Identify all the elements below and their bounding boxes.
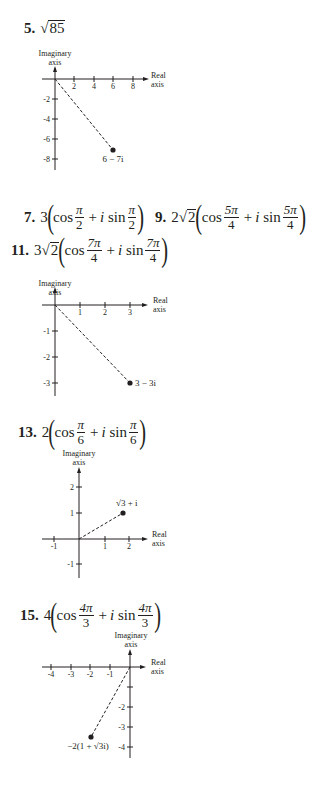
arrow-icon: [128, 649, 132, 655]
point-label: −2(1 + √3i): [67, 741, 109, 751]
svg-text:Imaginary: Imaginary: [63, 449, 96, 458]
svg-text:1: 1: [70, 509, 74, 518]
tick-labels: 2 4 6 8 -2 -4 -6 -8: [43, 82, 135, 164]
problem-number: 13.: [18, 424, 37, 441]
svg-text:Imaginary: Imaginary: [39, 49, 72, 58]
svg-text:-2: -2: [87, 670, 94, 679]
svg-text:-6: -6: [43, 135, 50, 144]
svg-text:Imaginary: Imaginary: [115, 631, 148, 640]
real-axis-label: Real axis: [152, 530, 167, 548]
point-label: 3 − 3i: [135, 378, 157, 388]
data-point: [120, 510, 125, 515]
svg-text:6: 6: [111, 82, 115, 91]
svg-text:2: 2: [103, 308, 107, 317]
svg-text:-3: -3: [68, 670, 75, 679]
graph-problem-15: Imaginary axis Real axis -4 -3 -2 -1 -2 …: [0, 630, 312, 780]
tick-labels: -1 1 2 2 1 -1: [51, 483, 131, 569]
tick-labels: 1 2 3 -1 -2 -3: [43, 308, 132, 388]
problem-number: 15.: [20, 607, 39, 624]
point-label: √3 + i: [116, 498, 138, 508]
svg-text:axis: axis: [153, 305, 166, 314]
graph-problem-11: Imaginary axis Real axis 1 2 3 -1 -2 -3 …: [0, 270, 312, 410]
svg-text:2: 2: [70, 483, 74, 492]
data-point: [88, 734, 93, 739]
svg-text:-2: -2: [118, 703, 125, 712]
problem-number: 11.: [11, 242, 29, 259]
svg-text:Imaginary: Imaginary: [39, 279, 72, 288]
svg-text:-2: -2: [43, 95, 50, 104]
svg-text:8: 8: [131, 82, 135, 91]
svg-text:Real: Real: [151, 71, 166, 80]
arrow-icon: [140, 665, 146, 669]
svg-text:-3: -3: [118, 723, 125, 732]
svg-text:-4: -4: [43, 115, 50, 124]
data-point: [110, 147, 115, 152]
problem-number: 9.: [155, 209, 166, 226]
svg-text:axis: axis: [49, 58, 62, 67]
real-axis-label: Real axis: [153, 296, 168, 314]
svg-text:-1: -1: [107, 670, 114, 679]
svg-text:-4: -4: [118, 743, 125, 752]
svg-text:-8: -8: [43, 155, 50, 164]
svg-text:Real: Real: [151, 658, 166, 667]
real-axis-label: Real axis: [151, 71, 166, 89]
svg-text:-3: -3: [43, 379, 50, 388]
svg-text:Real: Real: [152, 530, 167, 539]
svg-text:axis: axis: [73, 458, 86, 467]
dashed-line: [79, 513, 123, 539]
svg-text:-1: -1: [51, 542, 58, 551]
svg-text:2: 2: [127, 542, 131, 551]
svg-text:2: 2: [72, 82, 76, 91]
data-point: [127, 380, 132, 385]
dashed-line: [55, 79, 113, 150]
imaginary-axis-label: Imaginary axis: [63, 449, 96, 467]
svg-text:-1: -1: [43, 327, 50, 336]
svg-text:-4: -4: [48, 670, 55, 679]
svg-text:1: 1: [103, 542, 107, 551]
graph-problem-13: Imaginary axis Real axis -1 1 2 2 1 -1 √…: [0, 450, 312, 590]
dashed-line: [55, 305, 130, 383]
graph-problem-5: Imaginary axis Real axis 2 4 6 8 -2 -4 -…: [0, 0, 312, 180]
arrow-icon: [142, 303, 148, 307]
problem-7: 7. 3 ( cos π2 + i sin π2 ): [24, 200, 143, 234]
svg-text:axis: axis: [151, 80, 164, 89]
arrow-icon: [143, 77, 149, 81]
problem-13: 13. 2 ( cos π6 + i sin π6 ): [18, 415, 145, 449]
svg-text:-1: -1: [67, 560, 74, 569]
svg-text:-2: -2: [43, 353, 50, 362]
svg-text:3: 3: [128, 308, 132, 317]
svg-text:axis: axis: [125, 640, 138, 649]
problem-9: 9. 2 √2 ( cos 5π4 + i sin 5π4 ): [155, 200, 305, 234]
problem-15: 15. 4 ( cos 4π3 + i sin 4π3 ): [20, 598, 160, 632]
tick-labels: -4 -3 -2 -1 -2 -3 -4: [48, 670, 125, 752]
imaginary-axis-label: Imaginary axis: [115, 631, 148, 649]
arrow-icon: [77, 467, 81, 473]
problem-11: 11. 3 √2 ( cos 7π4 + i sin 7π4 ): [11, 233, 168, 267]
svg-text:1: 1: [78, 308, 82, 317]
svg-text:Real: Real: [153, 296, 168, 305]
svg-text:axis: axis: [151, 667, 164, 676]
imaginary-axis-label: Imaginary axis: [39, 49, 72, 67]
arrow-icon: [142, 537, 148, 541]
problem-number: 7.: [24, 209, 35, 226]
real-axis-label: Real axis: [151, 658, 166, 676]
point-label: 6 − 7i: [102, 154, 124, 164]
svg-text:4: 4: [92, 82, 96, 91]
svg-text:axis: axis: [152, 539, 165, 548]
